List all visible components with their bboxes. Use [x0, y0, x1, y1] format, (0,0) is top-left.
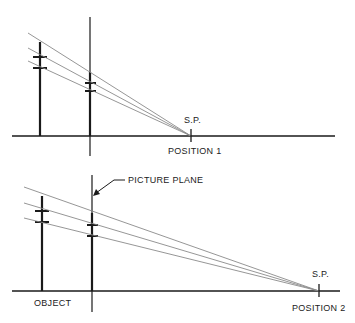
bottom-diagram: PICTURE PLANE S.P. POSITION 2 OBJECT: [12, 175, 346, 313]
bottom-position-label: POSITION 2: [292, 303, 346, 313]
top-diagram: S.P. POSITION 1: [12, 17, 335, 156]
bottom-ray-3: [24, 218, 319, 291]
top-ray-1: [28, 33, 191, 136]
bottom-sp-label: S.P.: [312, 269, 329, 279]
top-sp-label: S.P.: [184, 115, 201, 125]
picture-plane-arrow-icon: [93, 189, 100, 196]
top-ray-3: [28, 61, 191, 136]
object-label: OBJECT: [34, 298, 72, 308]
picture-plane-leader: [96, 180, 125, 193]
top-ray-2: [28, 48, 191, 136]
bottom-ray-2: [24, 203, 319, 291]
top-position-label: POSITION 1: [168, 146, 222, 156]
perspective-diagram: S.P. POSITION 1 PICTURE PLANE S.P. POSIT…: [0, 0, 355, 323]
bottom-ray-1: [24, 187, 319, 291]
picture-plane-label: PICTURE PLANE: [128, 175, 203, 185]
